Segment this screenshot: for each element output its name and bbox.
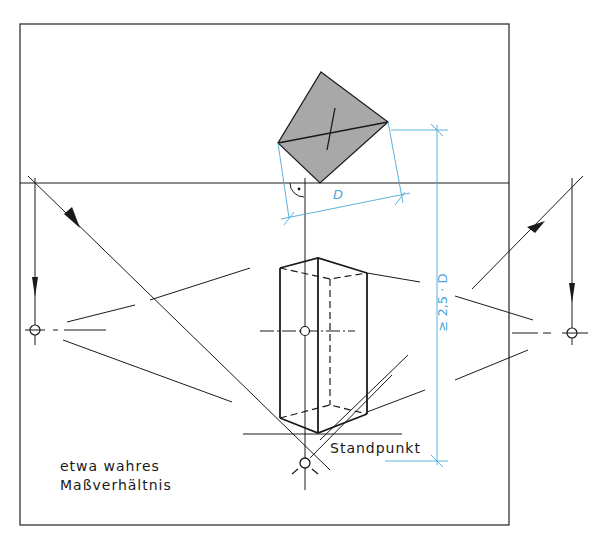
plan-view-square (278, 72, 388, 183)
ray-top-right (367, 273, 420, 282)
arrow-diagonal-left (64, 207, 80, 228)
proportion-note: etwa wahres Maßverhältnis (60, 457, 172, 495)
note-line-2: Maßverhältnis (60, 476, 172, 495)
standpoint-label: Standpunkt (330, 440, 421, 456)
arrow-down-left (32, 277, 38, 297)
dimension-distance-label: ≥ 2,5 · D (435, 273, 450, 331)
standpoint-marker (300, 458, 310, 468)
rvp-lower (455, 350, 528, 380)
rvp-upper (455, 296, 533, 320)
right-angle-dot (298, 188, 301, 191)
box-hidden-edges (280, 268, 367, 418)
stand-leg-left (292, 469, 298, 474)
arrow-diagonal-right (527, 221, 545, 233)
ray-bottom-right (367, 390, 425, 412)
ray-top-left (150, 268, 250, 300)
stand-leg-right (312, 469, 318, 474)
right-angle-mark (290, 183, 304, 197)
dimension-d-label: D (333, 187, 343, 202)
right-diagonal (472, 176, 583, 289)
lvp-upper (67, 305, 135, 322)
note-line-1: etwa wahres (60, 457, 172, 476)
arrow-down-right (569, 283, 575, 303)
center-point (301, 327, 310, 336)
